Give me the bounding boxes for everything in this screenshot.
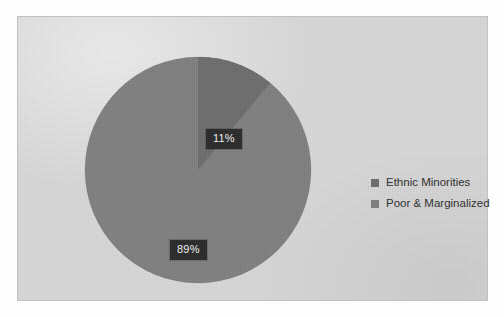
chart-panel: 11% 89% Ethnic Minorities Poor & Margina… bbox=[17, 16, 488, 301]
data-label-ethnic-minorities: 11% bbox=[206, 129, 242, 149]
legend-label-ethnic-minorities: Ethnic Minorities bbox=[386, 177, 470, 189]
chart-legend: Ethnic Minorities Poor & Marginalized bbox=[371, 172, 499, 214]
chart-screenshot: 11% 89% Ethnic Minorities Poor & Margina… bbox=[0, 0, 504, 317]
legend-item-ethnic-minorities[interactable]: Ethnic Minorities bbox=[371, 172, 499, 193]
legend-swatch-icon bbox=[371, 200, 379, 208]
legend-item-poor-marginalized[interactable]: Poor & Marginalized bbox=[371, 193, 499, 214]
legend-label-poor-marginalized: Poor & Marginalized bbox=[386, 198, 490, 210]
data-label-poor-marginalized: 89% bbox=[170, 240, 207, 260]
legend-swatch-icon bbox=[371, 179, 379, 187]
